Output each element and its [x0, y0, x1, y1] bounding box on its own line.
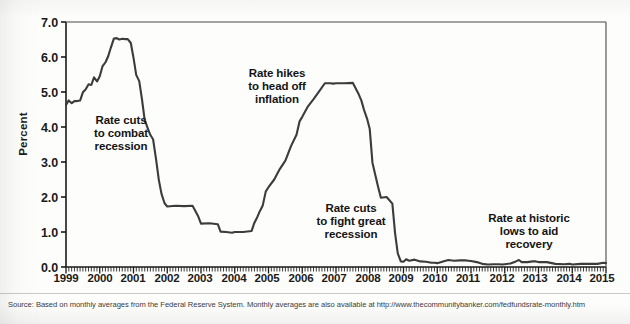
annotation-line: recession — [305, 228, 397, 241]
annotation-rate-cuts-great-recession: Rate cuts to fight great recession — [305, 202, 397, 242]
source-note: Source: Based on monthly averages from t… — [8, 300, 624, 309]
annotation-line: Rate cuts — [305, 202, 397, 215]
annotation-line: recession — [78, 140, 164, 153]
figure-page: Percent 7.0 6.0 5.0 4.0 3.0 2.0 1.0 0.0 … — [0, 0, 630, 324]
annotation-line: to head off — [236, 80, 318, 93]
annotation-line: to fight great — [305, 215, 397, 228]
figure-divider — [0, 293, 630, 294]
annotation-line: to combat — [78, 127, 164, 140]
annotation-line: Rate at historic — [479, 212, 579, 225]
x-minor-tick-marks — [66, 267, 606, 274]
annotation-rate-hikes-inflation: Rate hikes to head off inflation — [236, 67, 318, 107]
annotation-line: Rate cuts — [78, 114, 164, 127]
annotation-rate-historic-lows: Rate at historic lows to aid recovery — [479, 212, 579, 252]
annotation-line: Rate hikes — [236, 67, 318, 80]
annotation-rate-cuts-recession: Rate cuts to combat recession — [78, 114, 164, 154]
annotation-line: lows to aid — [479, 225, 579, 238]
annotation-line: inflation — [236, 93, 318, 106]
chart-area: Percent 7.0 6.0 5.0 4.0 3.0 2.0 1.0 0.0 … — [0, 0, 630, 292]
annotation-line: recovery — [479, 238, 579, 251]
